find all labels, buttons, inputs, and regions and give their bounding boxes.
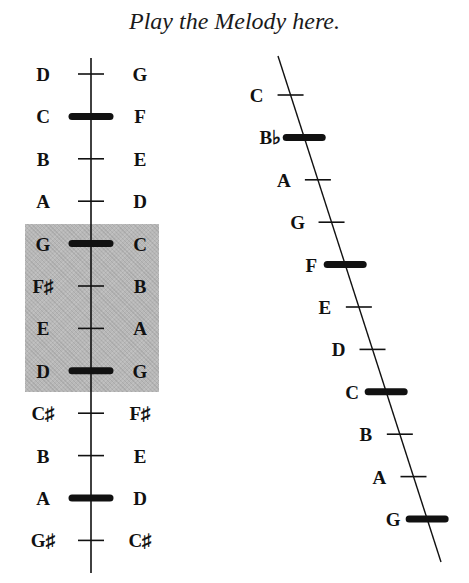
note-label-right: F	[134, 106, 146, 127]
note-label-right: G	[133, 64, 148, 85]
note-label-right: C	[133, 234, 147, 255]
note-label-left: D	[36, 361, 50, 382]
note-label-left: B	[37, 149, 50, 170]
note-label-left: G	[36, 234, 51, 255]
note-label: F	[305, 255, 317, 276]
note-label: C	[345, 382, 359, 403]
note-label: B	[359, 424, 372, 445]
note-label-right: E	[134, 446, 147, 467]
note-label-left: C	[36, 106, 50, 127]
note-label-left: B	[37, 446, 50, 467]
note-label-right: D	[133, 488, 147, 509]
note-label-right: D	[133, 191, 147, 212]
note-label: E	[319, 297, 332, 318]
note-label-left: E	[37, 318, 50, 339]
note-label-left: C♯	[31, 403, 55, 424]
note-label-right: F♯	[129, 403, 151, 424]
note-label: A	[373, 467, 387, 488]
note-label-left: G♯	[31, 530, 56, 551]
note-label: G	[290, 212, 305, 233]
note-label: B♭	[259, 127, 281, 148]
fingerboard-diagram: DGCFBEADGCF♯BEADGC♯F♯BEADG♯C♯ CB♭AGFEDCB…	[0, 0, 469, 583]
note-label-right: E	[134, 149, 147, 170]
note-label: D	[332, 339, 346, 360]
note-label-left: A	[36, 191, 50, 212]
right-scale-axis	[278, 56, 441, 562]
note-label-right: B	[134, 276, 147, 297]
note-label: C	[250, 85, 264, 106]
note-label: A	[277, 170, 291, 191]
note-label-right: G	[133, 361, 148, 382]
note-label-right: C♯	[128, 530, 152, 551]
note-label-left: A	[36, 488, 50, 509]
note-label-left: F♯	[32, 276, 54, 297]
note-label-left: D	[36, 64, 50, 85]
note-label: G	[386, 509, 401, 530]
note-label-right: A	[133, 318, 147, 339]
